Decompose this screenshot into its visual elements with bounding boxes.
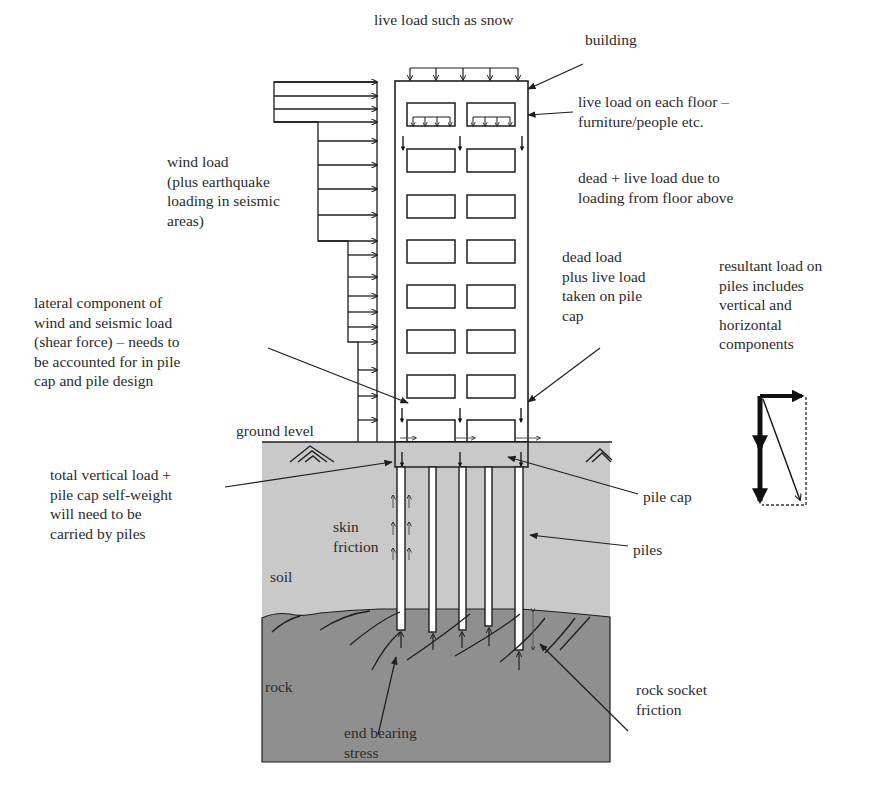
snow-load-arrows: [410, 68, 518, 80]
label-rock: rock: [265, 677, 293, 697]
pile-cap: [395, 442, 528, 467]
label-ground-level: ground level: [236, 421, 314, 441]
label-skin-friction: skin friction: [333, 517, 379, 556]
label-rock-socket: rock socket friction: [636, 680, 707, 719]
pile-foundation-diagram: [0, 0, 890, 802]
building-outline: [395, 81, 528, 442]
label-building: building: [585, 30, 637, 50]
label-piles: piles: [633, 540, 662, 560]
label-dead-load-pile-cap: dead load plus live load taken on pile c…: [562, 247, 646, 325]
resultant-vector-diagram: [760, 396, 806, 505]
label-live-load-floor: live load on each floor – furniture/peop…: [578, 92, 729, 131]
building-windows: [407, 149, 515, 442]
label-total-vertical-load: total vertical load + pile cap self-weig…: [50, 465, 172, 543]
label-wind-load: wind load (plus earthquake loading in se…: [167, 152, 280, 230]
floor-load-arrows: [403, 136, 522, 150]
label-dead-live-floor-above: dead + live load due to loading from flo…: [578, 168, 733, 207]
top-floor-windows: [407, 103, 515, 126]
label-live-load-snow: live load such as snow: [374, 10, 513, 30]
wind-load-profile: [274, 82, 377, 442]
label-resultant-load: resultant load on piles includes vertica…: [719, 256, 822, 354]
label-end-bearing: end bearing stress: [344, 723, 417, 762]
label-soil: soil: [270, 567, 292, 587]
label-pile-cap: pile cap: [643, 487, 692, 507]
label-lateral-component: lateral component of wind and seismic lo…: [34, 293, 180, 391]
